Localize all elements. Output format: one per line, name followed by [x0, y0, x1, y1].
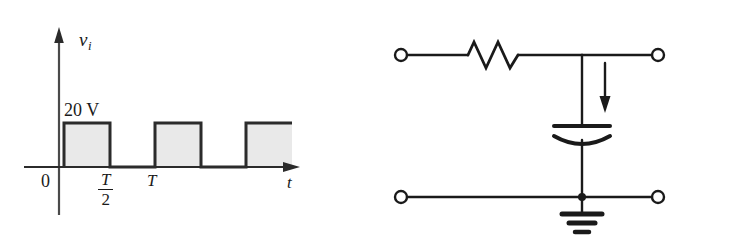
pulse-fill-2: [155, 123, 201, 167]
rc-circuit-panel: R 5 kΩ ic C 0.04 μF + vi − + vc −: [368, 0, 736, 239]
waveform-y-axis-label: vi: [79, 30, 92, 53]
resistor-symbol: [468, 42, 518, 68]
figure-rc-circuit-with-square-wave-input: vi 20 V 0 T 2 T t: [0, 0, 736, 239]
pulse-fill-3: [246, 123, 292, 167]
input-terminal-bottom: [395, 191, 407, 203]
input-terminal-top: [395, 49, 407, 61]
waveform-period-label: T: [147, 172, 156, 189]
waveform-amplitude-label: 20 V: [64, 101, 99, 119]
current-arrow-head: [600, 96, 611, 113]
waveform-origin-label: 0: [41, 172, 50, 190]
output-terminal-bottom: [652, 191, 664, 203]
waveform-x-axis-label: t: [287, 174, 292, 191]
y-axis-arrowhead: [54, 27, 64, 43]
output-terminal-top: [652, 49, 664, 61]
input-waveform-panel: vi 20 V 0 T 2 T t: [0, 0, 368, 239]
pulse-fill-group: [64, 123, 292, 167]
pulse-fill-1: [64, 123, 110, 167]
waveform-plot: [0, 0, 368, 239]
circuit-schematic: [368, 0, 736, 239]
waveform-half-period-label: T 2: [98, 171, 113, 208]
